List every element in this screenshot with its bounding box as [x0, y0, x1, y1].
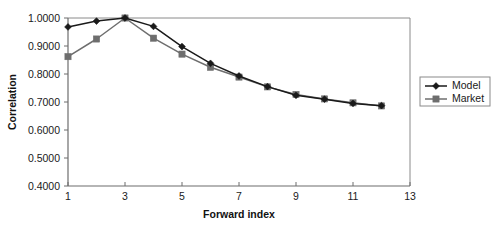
- x-tick-label: 13: [404, 190, 416, 202]
- series-model: [65, 15, 385, 109]
- x-tick-label: 3: [122, 190, 128, 202]
- chart-canvas: 0.40000.50000.60000.70000.80000.90001.00…: [0, 0, 497, 233]
- x-tick-label: 1: [65, 190, 71, 202]
- data-series-layer: [65, 15, 385, 109]
- x-axis-title: Forward index: [203, 208, 275, 220]
- data-point-marker-square: [93, 36, 99, 42]
- data-point-marker-diamond: [93, 18, 100, 25]
- series-market: [65, 15, 385, 109]
- data-point-marker-square: [433, 96, 439, 102]
- y-tick-label: 0.8000: [28, 68, 60, 80]
- x-axis-tick-labels: 135791113: [65, 190, 416, 202]
- y-tick-label: 0.9000: [28, 40, 60, 52]
- legend-label-market: Market: [452, 92, 484, 104]
- x-tick-label: 7: [236, 190, 242, 202]
- y-tick-label: 0.4000: [28, 180, 60, 192]
- x-tick-label: 11: [348, 190, 359, 202]
- y-axis-tick-labels: 0.40000.50000.60000.70000.80000.90001.00…: [28, 12, 60, 192]
- legend-label-model: Model: [452, 79, 481, 91]
- series-line-market: [68, 18, 382, 106]
- y-tick-label: 1.0000: [28, 12, 60, 24]
- correlation-line-chart: 0.40000.50000.60000.70000.80000.90001.00…: [0, 0, 497, 233]
- series-line-model: [68, 18, 382, 106]
- data-point-marker-diamond: [65, 24, 72, 31]
- x-tick-label: 5: [179, 190, 185, 202]
- y-tick-label: 0.7000: [28, 96, 60, 108]
- chart-legend: ModelMarket: [420, 77, 490, 106]
- y-tick-label: 0.5000: [28, 152, 60, 164]
- plot-frame: [68, 18, 410, 186]
- data-point-marker-square: [150, 35, 156, 41]
- y-tick-label: 0.6000: [28, 124, 60, 136]
- x-tick-label: 9: [293, 190, 299, 202]
- y-axis-title: Correlation: [6, 74, 18, 130]
- data-point-marker-square: [65, 54, 71, 60]
- data-point-marker-square: [179, 51, 185, 57]
